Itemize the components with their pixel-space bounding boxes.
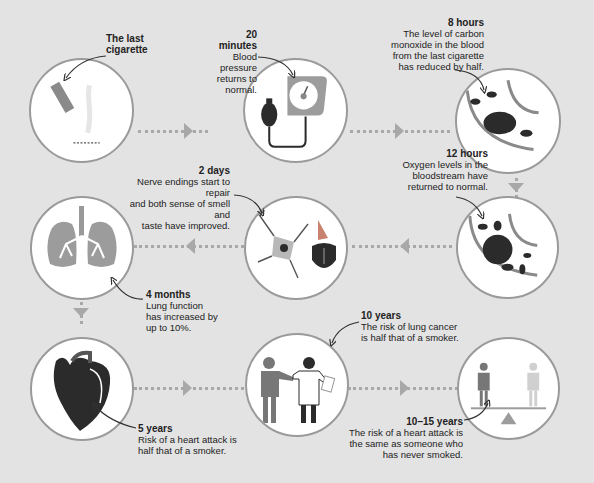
arrow-right-icon [400, 380, 409, 396]
stage-circle-last-cigarette [29, 58, 134, 163]
label-last-cigarette: The last cigarette [106, 33, 148, 55]
stage-text: half that of a smoker. [138, 445, 237, 456]
stage-text: The level of carbon [368, 28, 484, 39]
label-8-hours: 8 hours The level of carbon monoxide in … [368, 17, 484, 72]
blood-cells-oxygen-icon [458, 198, 557, 297]
label-4-months: 4 months Lung function has increased by … [146, 289, 218, 333]
stage-text: from the last cigarette [368, 50, 484, 61]
stage-text: bloodstream have [380, 170, 488, 181]
arrow-down-icon [508, 183, 524, 192]
label-10-years: 10 years The risk of lung cancer is half… [361, 310, 459, 343]
arrow-down-icon [73, 308, 89, 317]
stage-text: The risk of lung cancer [361, 321, 459, 332]
balance-scale-people-icon [459, 339, 558, 438]
stage-text: The risk of a heart attack is [348, 427, 463, 438]
lungs-icon [32, 198, 132, 298]
stage-circle-2-days [244, 196, 348, 300]
stage-circle-4-months [30, 196, 134, 300]
stage-text: has increased by [146, 311, 218, 322]
stage-circle-10-15-years [457, 337, 560, 440]
stage-text: has reduced by half. [368, 61, 484, 72]
stage-text: Nerve endings start to repair [120, 176, 230, 198]
stage-circle-20-minutes [243, 58, 348, 163]
stage-text: returned to normal. [380, 181, 488, 192]
stage-title: 2 days [120, 165, 230, 176]
stage-text: returns to normal. [205, 73, 257, 95]
arrow-right-icon [183, 380, 192, 396]
stage-text: the same as someone who [348, 438, 463, 449]
label-5-years: 5 years Risk of a heart attack is half t… [138, 423, 237, 456]
stage-title: 20 minutes [205, 29, 257, 51]
stage-title: 10–15 years [348, 416, 463, 427]
stage-circle-10-years [245, 333, 349, 437]
arrow-left-icon [400, 238, 409, 254]
stage-title: 5 years [138, 423, 237, 434]
stage-text: Risk of a heart attack is [138, 434, 237, 445]
stage-text: Oxygen levels in the [380, 159, 488, 170]
label-12-hours: 12 hours Oxygen levels in the bloodstrea… [380, 148, 488, 192]
arrow-left-icon [186, 238, 195, 254]
stage-text: up to 10%. [146, 322, 218, 333]
stage-text: monoxide in the blood [368, 39, 484, 50]
stage-title: 4 months [146, 289, 218, 300]
stage-text: taste have improved. [120, 220, 230, 231]
stage-text: is half that of a smoker. [361, 332, 459, 343]
stage-circle-5-years [30, 337, 134, 441]
arrow-right-icon [395, 123, 404, 139]
stage-title: 8 hours [368, 17, 484, 28]
label-2-days: 2 days Nerve endings start to repair and… [120, 165, 230, 231]
patient-doctor-icon [247, 335, 347, 435]
stage-title: The last [106, 33, 148, 44]
stage-text: Blood pressure [205, 51, 257, 73]
stage-text: and both sense of smell and [120, 198, 230, 220]
stage-text: has never smoked. [348, 449, 463, 460]
connector-1-2 [138, 130, 208, 133]
stage-circle-12-hours [456, 196, 559, 299]
nerve-cell-nose-tongue-icon [246, 198, 346, 298]
stage-title: 10 years [361, 310, 459, 321]
stage-title: cigarette [106, 44, 148, 55]
cigarette-icon [31, 60, 132, 161]
stage-text: Lung function [146, 300, 218, 311]
stage-title: 12 hours [380, 148, 488, 159]
label-20-minutes: 20 minutes Blood pressure returns to nor… [205, 29, 257, 95]
arrow-right-icon [184, 123, 193, 139]
label-10-15-years: 10–15 years The risk of a heart attack i… [348, 416, 463, 460]
blood-pressure-gauge-icon [245, 60, 346, 161]
heart-icon [32, 339, 132, 439]
